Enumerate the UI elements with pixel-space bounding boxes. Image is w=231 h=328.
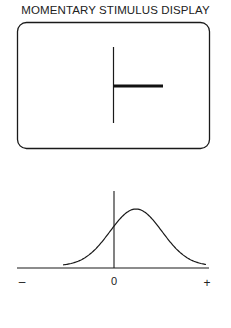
diagram-canvas: – 0 +: [0, 0, 231, 328]
x-tick-label-zero: 0: [111, 275, 117, 287]
response-curve: [63, 209, 206, 265]
x-tick-label-plus: +: [203, 276, 210, 290]
x-tick-label-minus: –: [19, 275, 26, 289]
